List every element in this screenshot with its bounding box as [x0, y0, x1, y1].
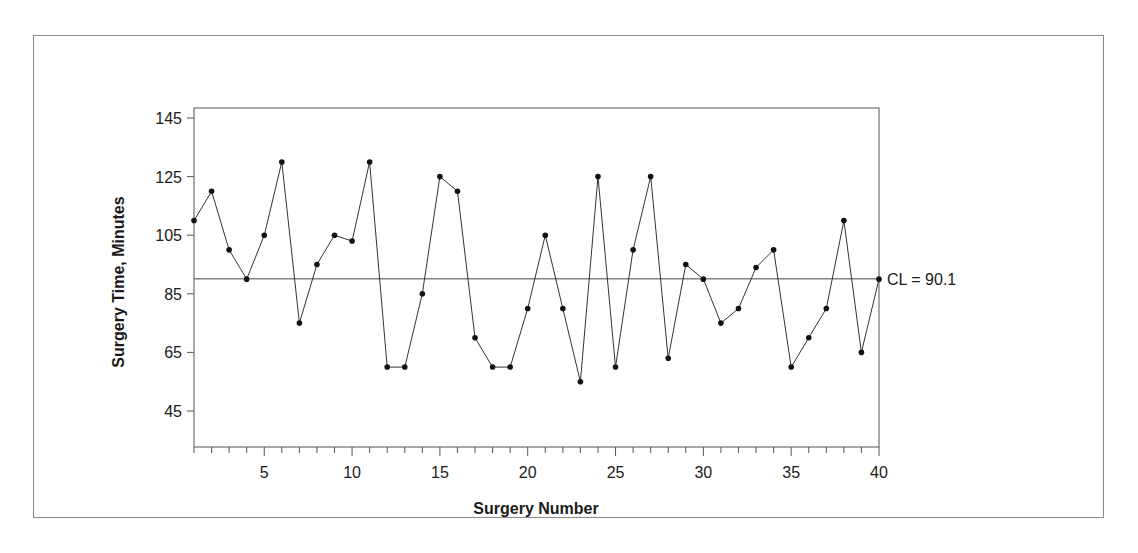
x-tick-label: 15	[431, 464, 449, 481]
data-point	[349, 238, 355, 244]
control-chart: 456585105125145 510152025303540 CL = 90.…	[0, 0, 1138, 553]
y-tick-label: 105	[155, 227, 182, 244]
data-point	[191, 218, 197, 224]
data-point	[665, 355, 671, 361]
data-point	[753, 265, 759, 271]
x-tick-label: 5	[260, 464, 269, 481]
data-point	[226, 247, 232, 253]
data-point	[437, 174, 443, 180]
x-axis: 510152025303540	[194, 447, 888, 481]
y-tick-label: 145	[155, 110, 182, 127]
x-tick-label: 30	[694, 464, 712, 481]
data-point	[771, 247, 777, 253]
y-axis: 456585105125145	[155, 110, 194, 420]
data-point	[718, 320, 724, 326]
data-point	[578, 379, 584, 385]
data-point	[876, 276, 882, 282]
center-line-label: CL = 90.1	[887, 271, 956, 288]
data-point	[367, 159, 373, 165]
data-point	[560, 306, 566, 312]
data-point	[244, 276, 250, 282]
y-tick-label: 45	[164, 403, 182, 420]
data-point	[701, 276, 707, 282]
data-point	[314, 262, 320, 268]
data-point	[806, 335, 812, 341]
data-point	[630, 247, 636, 253]
data-point	[402, 364, 408, 370]
data-point	[525, 306, 531, 312]
data-point	[279, 159, 285, 165]
data-point	[859, 350, 865, 356]
data-point	[595, 174, 601, 180]
data-point	[736, 306, 742, 312]
x-tick-label: 10	[343, 464, 361, 481]
y-tick-label: 65	[164, 344, 182, 361]
data-point	[472, 335, 478, 341]
data-point	[261, 232, 267, 238]
data-point	[332, 232, 338, 238]
data-point	[507, 364, 513, 370]
data-point	[455, 188, 461, 194]
plot-area	[194, 108, 879, 447]
data-point	[788, 364, 794, 370]
x-tick-label: 35	[782, 464, 800, 481]
x-axis-title: Surgery Number	[473, 500, 598, 517]
data-point	[542, 232, 548, 238]
x-tick-label: 40	[870, 464, 888, 481]
data-line	[194, 162, 879, 382]
x-tick-label: 20	[519, 464, 537, 481]
data-point	[824, 306, 830, 312]
data-point	[297, 320, 303, 326]
data-point	[384, 364, 390, 370]
y-axis-title: Surgery Time, Minutes	[110, 196, 127, 367]
x-tick-label: 25	[607, 464, 625, 481]
y-tick-label: 125	[155, 169, 182, 186]
y-tick-label: 85	[164, 286, 182, 303]
data-point	[209, 188, 215, 194]
data-point	[683, 262, 689, 268]
data-point	[841, 218, 847, 224]
data-point	[613, 364, 619, 370]
data-point	[490, 364, 496, 370]
data-point	[420, 291, 426, 297]
data-point	[648, 174, 654, 180]
